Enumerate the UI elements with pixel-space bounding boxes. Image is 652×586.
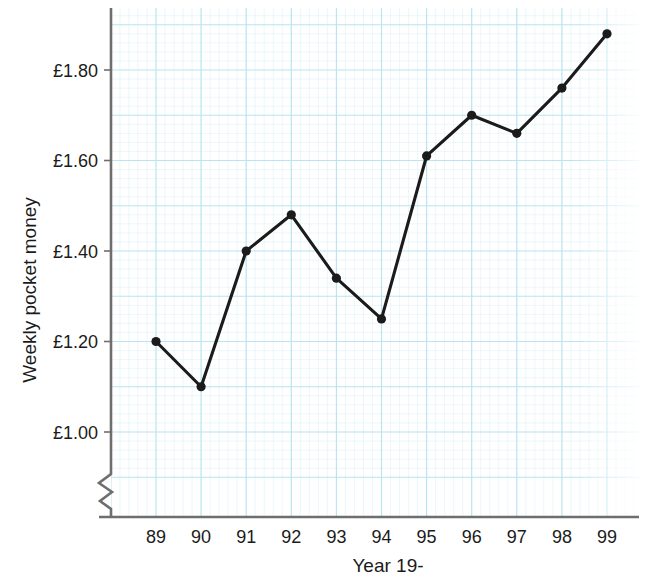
x-tick-label: 98	[552, 527, 572, 547]
x-tick-label: 91	[236, 527, 256, 547]
y-tick-labels: £1.00£1.20£1.40£1.60£1.80	[53, 61, 98, 443]
y-axis-line	[99, 8, 112, 517]
y-tick-label: £1.40	[53, 242, 98, 262]
data-point-95	[422, 151, 431, 160]
x-tick-label: 97	[507, 527, 527, 547]
y-tick-label: £1.00	[53, 423, 98, 443]
data-point-97	[512, 129, 521, 138]
data-point-92	[287, 210, 296, 219]
y-tick-label: £1.60	[53, 151, 98, 171]
x-tick-label: 94	[371, 527, 391, 547]
data-point-89	[151, 337, 160, 346]
line-chart: £1.00£1.20£1.40£1.60£1.80 89909192939495…	[0, 0, 652, 586]
data-point-91	[242, 246, 251, 255]
y-axis-title: Weekly pocket money	[19, 197, 40, 383]
x-tick-labels: 8990919293949596979899	[146, 527, 617, 547]
data-point-96	[467, 111, 476, 120]
x-tick-label: 96	[462, 527, 482, 547]
y-tick-label: £1.80	[53, 61, 98, 81]
y-tick-label: £1.20	[53, 332, 98, 352]
data-point-94	[377, 314, 386, 323]
data-point-90	[197, 382, 206, 391]
x-tick-label: 89	[146, 527, 166, 547]
data-point-93	[332, 274, 341, 283]
x-tick-label: 93	[326, 527, 346, 547]
x-tick-label: 95	[417, 527, 437, 547]
data-point-98	[557, 84, 566, 93]
x-tick-label: 99	[597, 527, 617, 547]
chart-page: £1.00£1.20£1.40£1.60£1.80 89909192939495…	[0, 0, 652, 586]
x-tick-label: 92	[281, 527, 301, 547]
x-axis-title: Year 19-	[352, 555, 423, 576]
x-tick-label: 90	[191, 527, 211, 547]
data-point-99	[602, 29, 611, 38]
